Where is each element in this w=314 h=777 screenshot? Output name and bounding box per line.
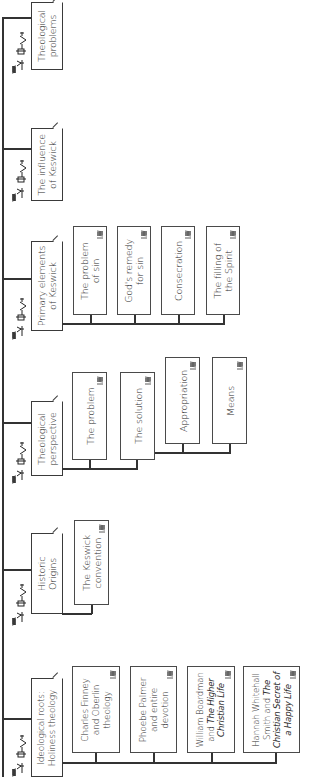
head-card-theological-perspective: Theological perspective bbox=[31, 401, 63, 476]
people-crowd-icon bbox=[8, 296, 30, 340]
card-notch bbox=[52, 0, 63, 7]
card-label: The problem bbox=[84, 387, 95, 445]
card-label: devotion bbox=[159, 677, 170, 742]
card-label: of sin bbox=[90, 242, 101, 300]
card-notch bbox=[52, 672, 63, 683]
card-label: Theological bbox=[36, 412, 47, 465]
card-label: Primary elements bbox=[36, 246, 47, 327]
card-label: Origins bbox=[47, 556, 58, 590]
people-crowd-icon bbox=[8, 582, 30, 626]
card-label: and The Higher bbox=[206, 672, 217, 747]
card-label: Ideological roots: bbox=[36, 689, 47, 765]
card-label: Means bbox=[224, 386, 235, 416]
card-label: Phoebe Palmer bbox=[137, 677, 148, 742]
branch-tick bbox=[223, 314, 225, 324]
child-card: Phoebe Palmer and entire devotion bbox=[130, 666, 177, 753]
card-label: Hannah Whitehall bbox=[251, 672, 262, 748]
child-card: The solution bbox=[120, 372, 155, 460]
card-label: The problem bbox=[79, 242, 90, 300]
child-card: Charles Finney and Oberlin theology bbox=[72, 666, 120, 753]
people-crowd-icon bbox=[8, 158, 30, 202]
branch-tick bbox=[134, 314, 136, 324]
connector bbox=[2, 278, 32, 280]
card-label: The Keswick bbox=[81, 534, 92, 590]
people-crowd-icon bbox=[8, 440, 30, 484]
card-notch bbox=[52, 395, 63, 406]
branch-tick bbox=[178, 314, 180, 324]
child-card: Hannah Whitehall Smith and The Christian… bbox=[243, 666, 300, 753]
branch-tick bbox=[275, 752, 277, 763]
connector bbox=[2, 718, 32, 720]
squiggle-icon bbox=[236, 361, 244, 371]
connector bbox=[2, 569, 32, 571]
card-label: Christian Secret of bbox=[272, 672, 283, 748]
card-label: Smith and The bbox=[261, 672, 272, 748]
card-label: Charles Finney bbox=[80, 678, 91, 741]
card-notch bbox=[52, 122, 63, 133]
card-label: Consecration bbox=[173, 240, 184, 300]
branch-line bbox=[62, 468, 138, 470]
child-card: Means bbox=[212, 357, 247, 444]
child-card: The problem of sin bbox=[73, 226, 107, 315]
card-label: The solution bbox=[132, 388, 143, 444]
connector bbox=[2, 148, 32, 150]
head-card-theological-problems: Theological problems bbox=[31, 2, 63, 70]
squiggle-icon bbox=[96, 376, 104, 386]
head-card-historic-origins: Historic Origins bbox=[31, 533, 63, 614]
squiggle-icon bbox=[98, 524, 106, 534]
squiggle-icon bbox=[96, 230, 104, 240]
card-label: William Boardman bbox=[195, 672, 206, 747]
card-label: God's remedy bbox=[123, 239, 134, 303]
branch-tick bbox=[91, 604, 93, 614]
squiggle-icon bbox=[184, 230, 192, 240]
branch-tick bbox=[182, 443, 184, 453]
card-label: of Keswick bbox=[47, 134, 58, 196]
card-label: Appropriation bbox=[177, 369, 188, 431]
people-crowd-icon bbox=[8, 733, 30, 777]
card-label: the Spirit bbox=[223, 243, 234, 299]
connector bbox=[2, 422, 32, 424]
card-label: and entire bbox=[148, 677, 159, 742]
card-label: convention bbox=[92, 534, 103, 590]
card-label: for sin bbox=[134, 239, 145, 303]
squiggle-icon bbox=[189, 361, 197, 371]
card-label: The influence bbox=[36, 134, 47, 196]
card-label: of Keswick bbox=[47, 246, 58, 327]
connector bbox=[2, 17, 32, 19]
head-card-ideological-roots: Ideological roots: Holiness theology bbox=[31, 678, 63, 777]
card-notch bbox=[52, 527, 63, 538]
card-notch bbox=[52, 235, 63, 246]
card-label: Theological bbox=[36, 10, 47, 62]
card-label: problems bbox=[47, 10, 58, 62]
card-label: Christian Life bbox=[216, 672, 227, 747]
child-card: William Boardman and The Higher Christia… bbox=[187, 666, 235, 753]
card-label: perspective bbox=[47, 412, 58, 465]
head-card-influence-of-keswick: The influence of Keswick bbox=[31, 128, 63, 201]
branch-line bbox=[153, 452, 231, 454]
card-label: Historic bbox=[36, 556, 47, 590]
card-label: Holiness theology bbox=[47, 689, 58, 765]
child-card: The filling of the Spirit bbox=[206, 226, 240, 315]
card-label: theology bbox=[102, 678, 113, 741]
branch-tick bbox=[89, 459, 91, 469]
card-label: a Happy Life bbox=[282, 672, 293, 748]
squiggle-icon bbox=[229, 230, 237, 240]
child-card: God's remedy for sin bbox=[117, 226, 151, 315]
branch-line bbox=[62, 613, 92, 615]
branch-line bbox=[62, 323, 225, 325]
child-card: The problem bbox=[72, 372, 107, 460]
card-label: and Oberlin bbox=[91, 678, 102, 741]
branch-tick bbox=[229, 443, 231, 453]
main-spine bbox=[2, 17, 4, 777]
people-crowd-icon bbox=[8, 30, 30, 74]
head-card-primary-elements: Primary elements of Keswick bbox=[31, 241, 63, 331]
child-card: The Keswick convention bbox=[74, 520, 109, 605]
branch-tick bbox=[90, 314, 92, 324]
branch-tick bbox=[95, 752, 97, 763]
branch-tick bbox=[153, 752, 155, 763]
child-card: Consecration bbox=[161, 226, 195, 315]
branch-tick bbox=[211, 752, 213, 763]
child-card: Appropriation bbox=[165, 357, 200, 444]
squiggle-icon bbox=[144, 376, 152, 386]
card-label: The filling of bbox=[212, 243, 223, 299]
